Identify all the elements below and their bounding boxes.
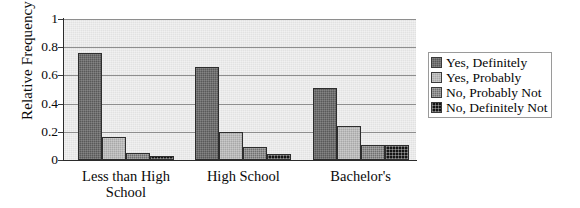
gridline <box>64 104 416 105</box>
y-axis-tick-labels: 10.80.60.40.20 <box>24 0 58 208</box>
plot-area <box>64 19 416 160</box>
x-axis-line <box>63 160 417 161</box>
y-axis-tick-label: 1 <box>24 12 58 26</box>
legend-item: Yes, Probably <box>431 70 548 85</box>
legend-swatch-icon <box>431 57 442 68</box>
gridline <box>64 47 416 48</box>
x-axis-category-label-line: School <box>56 184 196 200</box>
legend-item-label: Yes, Probably <box>446 71 521 85</box>
y-axis-tick-label: 0.8 <box>24 40 58 54</box>
gridline <box>64 75 416 76</box>
bar-chart: Relative Frequency 10.80.60.40.20 Less t… <box>0 0 580 208</box>
y-axis-tick-label: 0.2 <box>24 125 58 139</box>
legend-item: No, Probably Not <box>431 85 548 100</box>
bar <box>243 147 267 160</box>
bar <box>78 53 102 160</box>
bar <box>361 145 385 161</box>
bar <box>385 145 409 161</box>
bar <box>126 153 150 160</box>
legend-item-label: No, Probably Not <box>446 86 542 100</box>
bar <box>102 137 126 160</box>
y-axis-tick-label: 0.4 <box>24 97 58 111</box>
legend-item-label: No, Definitely Not <box>446 101 548 115</box>
legend-swatch-icon <box>431 102 442 113</box>
legend-swatch-icon <box>431 72 442 83</box>
y-axis-tick-label: 0 <box>24 153 58 167</box>
y-axis-line <box>63 18 64 161</box>
x-axis-category-label: Bachelor's <box>291 168 431 184</box>
bar <box>337 126 361 160</box>
legend: Yes, DefinitelyYes, ProbablyNo, Probably… <box>428 52 552 118</box>
gridline <box>64 19 416 20</box>
x-axis-category-label-line: Bachelor's <box>291 168 431 184</box>
legend-item: Yes, Definitely <box>431 55 548 70</box>
bar <box>219 132 243 160</box>
legend-item-label: Yes, Definitely <box>446 56 527 70</box>
legend-item: No, Definitely Not <box>431 100 548 115</box>
bar <box>195 67 219 160</box>
y-axis-tick-label: 0.6 <box>24 68 58 82</box>
legend-swatch-icon <box>431 87 442 98</box>
bar <box>313 88 337 160</box>
